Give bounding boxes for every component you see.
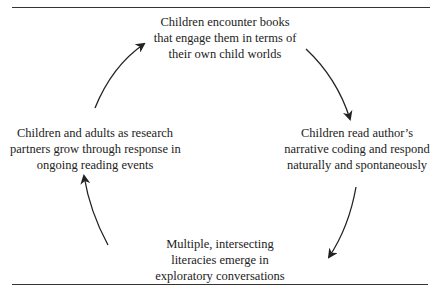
arrow-left-to-top: [95, 44, 144, 108]
arrow-right-to-bottom: [329, 187, 356, 257]
arrow-top-to-right: [306, 49, 350, 119]
arrow-bottom-to-left: [84, 176, 108, 245]
cycle-arrows: [0, 0, 440, 293]
